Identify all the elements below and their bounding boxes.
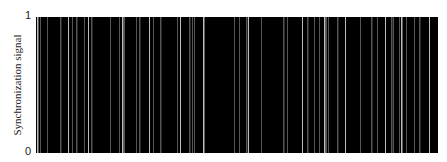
signal-zero-gap — [283, 17, 285, 153]
signal-zero-gap — [393, 17, 394, 153]
signal-zero-gap — [88, 17, 89, 153]
signal-zero-gap — [122, 17, 124, 153]
signal-zero-gap — [72, 17, 73, 153]
signal-zero-gap — [371, 17, 373, 153]
signal-zero-gap — [189, 17, 191, 153]
signal-zero-gap — [391, 17, 393, 153]
signal-zero-gap — [139, 17, 141, 153]
signal-zero-gap — [180, 17, 181, 153]
signal-zero-gap — [110, 17, 111, 153]
signal-zero-gap — [287, 17, 288, 153]
signal-zero-gap — [76, 17, 78, 153]
signal-zero-gap — [239, 17, 240, 153]
signal-zero-gap — [149, 17, 150, 153]
signal-zero-gap — [324, 17, 326, 153]
signal-zero-gap — [261, 17, 262, 153]
signal-zero-gap — [124, 17, 125, 153]
signal-zero-gap — [399, 17, 400, 153]
signal-zero-gap — [307, 17, 309, 153]
signal-gaps — [36, 17, 438, 153]
y-axis-label: Synchronization signal — [11, 34, 23, 135]
signal-zero-gap — [302, 17, 303, 153]
signal-zero-gap — [84, 17, 85, 153]
signal-zero-gap — [160, 17, 162, 153]
signal-zero-gap — [234, 17, 235, 153]
signal-zero-gap — [40, 17, 41, 153]
signal-zero-gap — [60, 17, 62, 153]
plot-area — [36, 17, 438, 153]
signal-zero-gap — [119, 17, 120, 153]
signal-zero-gap — [326, 17, 327, 153]
y-tick-0: 0 — [25, 145, 31, 157]
signal-zero-gap — [37, 17, 39, 153]
signal-zero-gap — [401, 17, 403, 153]
signal-zero-gap — [194, 17, 195, 153]
signal-zero-gap — [246, 17, 248, 153]
signal-zero-gap — [91, 17, 93, 153]
signal-zero-gap — [385, 17, 386, 153]
signal-zero-gap — [345, 17, 346, 153]
signal-zero-gap — [68, 17, 69, 153]
signal-zero-gap — [314, 17, 315, 153]
signal-zero-gap — [248, 17, 249, 153]
signal-zero-gap — [377, 17, 378, 153]
y-tick-1: 1 — [25, 9, 31, 21]
signal-zero-gap — [337, 17, 339, 153]
signal-zero-gap — [153, 17, 154, 153]
signal-zero-gap — [360, 17, 361, 153]
signal-zero-gap — [328, 17, 329, 153]
signal-zero-gap — [406, 17, 407, 153]
signal-zero-gap — [47, 17, 48, 153]
signal-zero-gap — [429, 17, 430, 153]
signal-zero-gap — [192, 17, 193, 153]
signal-zero-gap — [203, 17, 205, 153]
signal-zero-gap — [419, 17, 421, 153]
signal-zero-gap — [414, 17, 415, 153]
signal-zero-gap — [177, 17, 178, 153]
signal-zero-gap — [319, 17, 320, 153]
signal-zero-gap — [136, 17, 137, 153]
